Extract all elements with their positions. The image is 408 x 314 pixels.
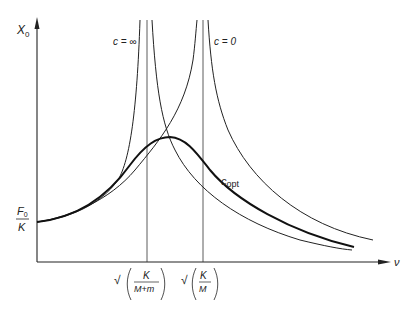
svg-text:K: K — [200, 270, 208, 281]
curve-c-infinity — [37, 20, 140, 222]
x-tick-coupled: √ K M+m — [114, 268, 165, 300]
curve-c-zero — [37, 20, 197, 222]
y-axis-arrow-icon — [35, 17, 40, 29]
svg-text:√: √ — [181, 273, 188, 287]
svg-text:F0: F0 — [17, 205, 28, 218]
svg-text:M+m: M+m — [134, 284, 155, 294]
svg-text:√: √ — [114, 273, 121, 287]
curve-c-infinity-right — [152, 20, 352, 250]
label-c-infinity: c = ∞ — [113, 36, 137, 47]
svg-text:K: K — [143, 270, 151, 281]
curve-c-opt — [37, 137, 354, 247]
svg-text:K: K — [18, 221, 26, 233]
x-axis-arrow-icon — [378, 260, 391, 265]
y-axis-label: X0 — [16, 23, 30, 39]
label-c-opt: copt — [221, 175, 240, 189]
axes — [37, 24, 383, 262]
y-intercept-label: F0 K — [16, 205, 29, 233]
resonance-diagram: X0 ν F0 K c = ∞ c = 0 copt √ K M+m √ K M — [0, 0, 408, 314]
x-tick-free: √ K M — [181, 268, 218, 300]
label-c-zero: c = 0 — [214, 36, 236, 47]
svg-text:M: M — [199, 284, 207, 294]
curve-c-zero-right — [208, 20, 373, 240]
x-axis-label: ν — [394, 256, 400, 268]
